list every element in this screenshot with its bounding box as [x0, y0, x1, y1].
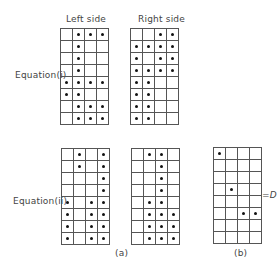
grid-cell-empty: [167, 89, 179, 101]
grid-cell-empty: [238, 220, 250, 232]
grid-cell-empty: [155, 77, 167, 89]
grid-cell-dot: [156, 197, 168, 209]
grid-cell-empty: [226, 232, 238, 244]
grid-cell-empty: [74, 185, 86, 197]
grid-cell-empty: [132, 221, 144, 233]
grid-cell-dot: [155, 29, 167, 41]
grid-cell-empty: [167, 101, 179, 113]
grid-cell-empty: [155, 113, 167, 125]
grid-cell-dot: [98, 221, 110, 233]
grid-cell-empty: [131, 29, 143, 41]
grid-cell-empty: [168, 185, 180, 197]
grid-cell-empty: [155, 89, 167, 101]
grid-cell-empty: [144, 161, 156, 173]
grid-cell-dot: [73, 89, 85, 101]
grid-cell-empty: [250, 148, 262, 160]
grid-cell-empty: [97, 65, 109, 77]
grid-cell-dot: [74, 161, 86, 173]
grid-cell-dot: [86, 197, 98, 209]
grid-cell-empty: [250, 172, 262, 184]
grid-cell-dot: [86, 221, 98, 233]
grid-cell-empty: [61, 65, 73, 77]
grid-cell-dot: [98, 161, 110, 173]
grid-cell-empty: [86, 161, 98, 173]
grid-cell-empty: [132, 233, 144, 245]
grid-cell-empty: [74, 221, 86, 233]
grid-cell-dot: [156, 233, 168, 245]
grid-cell-empty: [132, 185, 144, 197]
grid-cell-empty: [97, 53, 109, 65]
grid-cell-empty: [238, 160, 250, 172]
grid-cell-dot: [97, 101, 109, 113]
grid-cell-empty: [226, 220, 238, 232]
grid-cell-dot: [144, 233, 156, 245]
grid-cell-empty: [250, 184, 262, 196]
caption-b: (b): [234, 248, 247, 258]
grid-cell-dot: [73, 65, 85, 77]
grid-cell-dot: [73, 29, 85, 41]
grid-cell-dot: [144, 221, 156, 233]
grid-cell-empty: [250, 220, 262, 232]
grid-cell-dot: [73, 77, 85, 89]
grid-cell-dot: [155, 53, 167, 65]
grid-b-difference: [213, 147, 262, 244]
grid-cell-empty: [61, 113, 73, 125]
grid-cell-empty: [132, 197, 144, 209]
grid-cell-empty: [238, 232, 250, 244]
grid-eq-ii-right: [131, 148, 180, 245]
grid-cell-empty: [214, 196, 226, 208]
grid-cell-dot: [62, 209, 74, 221]
grid-cell-empty: [132, 173, 144, 185]
grid-cell-empty: [214, 232, 226, 244]
left-side-heading: Left side: [66, 14, 106, 24]
grid-cell-dot: [167, 65, 179, 77]
grid-cell-empty: [62, 161, 74, 173]
grid-eq-i-right: [130, 28, 179, 125]
grid-cell-empty: [61, 101, 73, 113]
grid-cell-empty: [250, 196, 262, 208]
grid-cell-dot: [167, 53, 179, 65]
grid-cell-empty: [226, 196, 238, 208]
grid-cell-dot: [131, 101, 143, 113]
grid-cell-dot: [143, 89, 155, 101]
grid-cell-dot: [98, 233, 110, 245]
grid-cell-empty: [62, 185, 74, 197]
grid-cell-dot: [98, 197, 110, 209]
grid-cell-empty: [167, 113, 179, 125]
grid-cell-empty: [214, 220, 226, 232]
grid-cell-dot: [155, 41, 167, 53]
grid-cell-empty: [61, 29, 73, 41]
grid-cell-empty: [132, 161, 144, 173]
grid-cell-empty: [143, 29, 155, 41]
grid-cell-dot: [214, 148, 226, 160]
grid-cell-dot: [62, 197, 74, 209]
grid-cell-dot: [74, 149, 86, 161]
grid-cell-empty: [226, 172, 238, 184]
grid-cell-empty: [85, 41, 97, 53]
grid-cell-empty: [74, 209, 86, 221]
grid-cell-dot: [156, 149, 168, 161]
grid-cell-empty: [97, 41, 109, 53]
grid-cell-empty: [86, 173, 98, 185]
right-side-heading: Right side: [138, 14, 185, 24]
grid-cell-empty: [168, 197, 180, 209]
equation-ii-label: Equation(ii): [13, 196, 67, 206]
grid-cell-empty: [168, 173, 180, 185]
grid-cell-empty: [238, 184, 250, 196]
grid-cell-dot: [97, 77, 109, 89]
grid-cell-empty: [74, 233, 86, 245]
grid-cell-dot: [73, 101, 85, 113]
grid-cell-dot: [238, 208, 250, 220]
grid-cell-dot: [131, 89, 143, 101]
grid-cell-dot: [97, 29, 109, 41]
grid-cell-empty: [144, 173, 156, 185]
grid-cell-dot: [226, 184, 238, 196]
grid-cell-empty: [168, 161, 180, 173]
grid-cell-empty: [97, 89, 109, 101]
grid-cell-dot: [143, 113, 155, 125]
grid-cell-dot: [61, 89, 73, 101]
grid-cell-empty: [214, 160, 226, 172]
grid-cell-empty: [250, 232, 262, 244]
grid-cell-empty: [85, 53, 97, 65]
grid-cell-empty: [132, 149, 144, 161]
